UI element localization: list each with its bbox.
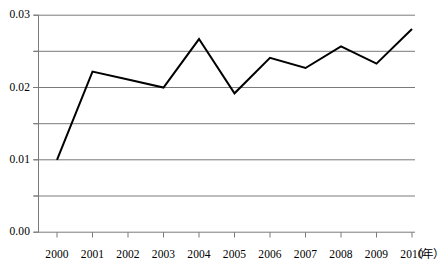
line-chart: 0.03 0.02 0.01 0.00 2000 2001 2002 2003 … [0,0,447,274]
x-axis-ticks [57,232,412,237]
y-axis-ticks [33,15,39,232]
y-tick-label-1: 0.02 [0,82,30,94]
chart-plot-area [0,0,447,274]
x-axis-unit-label: （年） [411,249,444,261]
gridlines [34,15,415,232]
y-tick-label-3: 0.00 [0,226,30,238]
y-tick-label-0: 0.03 [0,9,30,21]
data-series-line [57,29,412,160]
y-tick-label-2: 0.01 [0,154,30,166]
